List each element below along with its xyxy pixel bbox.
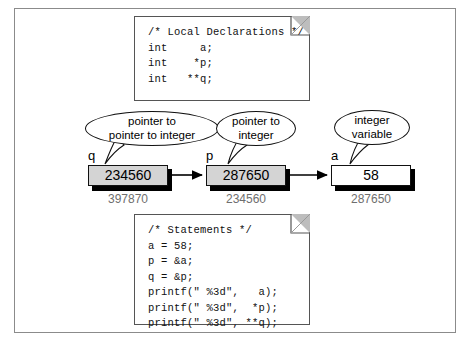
callout-p: pointer to integer <box>216 111 296 146</box>
callout-q: pointer to pointer to integer <box>85 111 219 146</box>
variable-box-q: 234560 <box>88 165 168 186</box>
page-fold-icon <box>291 214 310 233</box>
callout-a-text: integer variable <box>352 114 392 141</box>
statements-code: /* Statements */ a = 58; p = &a; q = &p;… <box>135 215 309 332</box>
varname-a: a <box>331 148 338 163</box>
page-fold-icon <box>291 16 310 35</box>
callout-q-text: pointer to pointer to integer <box>109 115 195 142</box>
varname-p: p <box>206 148 213 163</box>
callout-p-text: pointer to integer <box>232 115 280 142</box>
address-p: 234560 <box>206 192 286 206</box>
varname-q: q <box>88 148 95 163</box>
diagram-canvas: /* Local Declarations */ int a; int *p; … <box>0 0 472 346</box>
variable-box-a: 58 <box>331 165 411 186</box>
callout-a: integer variable <box>334 110 410 145</box>
local-declarations-note: /* Local Declarations */ int a; int *p; … <box>134 16 310 101</box>
statements-note: /* Statements */ a = 58; p = &a; q = &p;… <box>134 214 310 325</box>
address-a: 287650 <box>331 192 411 206</box>
local-declarations-code: /* Local Declarations */ int a; int *p; … <box>135 17 309 87</box>
variable-box-p: 287650 <box>206 165 286 186</box>
address-q: 397870 <box>88 192 168 206</box>
